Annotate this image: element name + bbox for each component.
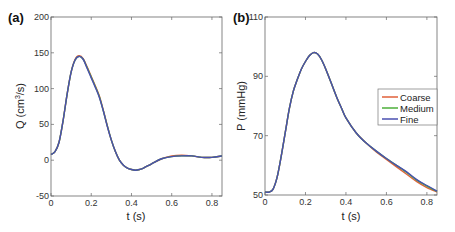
series-line-fine (51, 56, 222, 170)
y-tick-label: 100 (34, 84, 49, 94)
figure: (a) -50050100150200 00.20.40.60.8 t (s) … (0, 0, 455, 232)
y-tick-label: 50 (39, 119, 49, 129)
panel-label-a: (a) (8, 10, 24, 25)
x-tick-label: 0 (48, 198, 53, 208)
x-tick-label: 0.6 (380, 197, 393, 207)
panel-label-b: (b) (233, 10, 250, 25)
x-axis-label-b: t (s) (342, 210, 361, 222)
chart-panel-b: (b) 507090110 00.20.40.60.8 t (s) P (mmH… (233, 10, 437, 222)
x-tick-label: 0.8 (206, 198, 219, 208)
y-tick-label: -50 (36, 191, 49, 201)
legend-label-fine: Fine (400, 114, 418, 125)
x-tick-label: 0.2 (85, 198, 98, 208)
x-tick-label: 0.8 (421, 197, 434, 207)
series-line-coarse (51, 56, 222, 171)
x-axis-label-a: t (s) (127, 210, 146, 222)
y-tick-label: 200 (34, 12, 49, 22)
legend-label-coarse: Coarse (400, 92, 431, 103)
x-tick-label: 0 (262, 197, 267, 207)
x-tick-label: 0.4 (340, 197, 353, 207)
y-tick-label: 110 (249, 12, 263, 22)
plot-frame-a (51, 17, 222, 196)
x-axis-a: 00.20.40.60.8 (48, 17, 218, 208)
y-tick-label: 90 (253, 71, 263, 81)
x-tick-label: 0.6 (165, 198, 178, 208)
y-axis-label-b: P (mmHg) (235, 81, 247, 131)
x-tick-label: 0.4 (125, 198, 138, 208)
y-tick-label: 0 (44, 155, 49, 165)
series-line-medium (51, 56, 222, 170)
y-tick-label: 50 (253, 190, 263, 200)
y-tick-label: 70 (253, 131, 263, 141)
y-axis-label-a: Q (cm3/s) (14, 83, 26, 129)
legend-label-medium: Medium (400, 103, 434, 114)
chart-panel-a: (a) -50050100150200 00.20.40.60.8 t (s) … (8, 10, 222, 222)
y-axis-a: -50050100150200 (34, 12, 222, 201)
y-tick-label: 150 (34, 48, 49, 58)
x-tick-label: 0.2 (299, 197, 312, 207)
legend: CoarseMediumFine (378, 89, 437, 125)
data-lines-a (51, 56, 222, 171)
